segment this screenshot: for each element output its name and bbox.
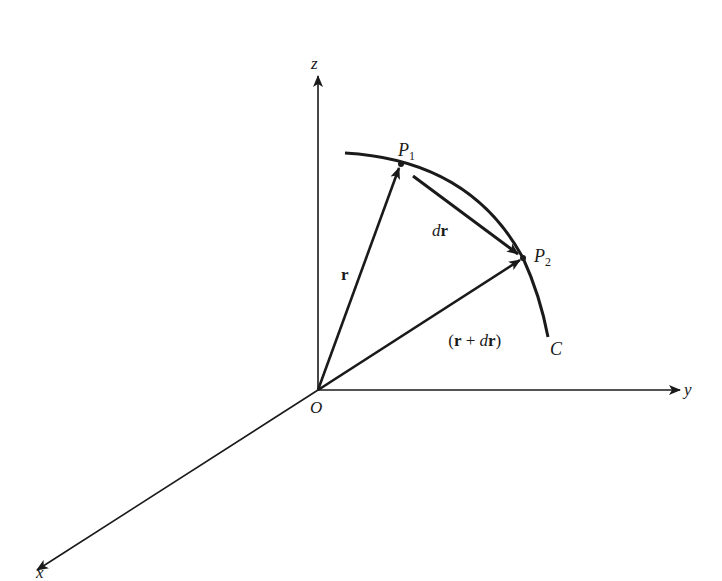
z-axis-label: z: [310, 54, 318, 73]
dr-r: r: [441, 221, 449, 240]
rpdr-plus: +: [461, 331, 479, 350]
x-axis-label: x: [35, 563, 44, 581]
y-axis-label: y: [682, 380, 692, 399]
p2-label: P2: [533, 246, 551, 269]
p1-letter: P: [397, 140, 409, 160]
curve-c-label: C: [550, 339, 563, 359]
p2-subscript: 2: [545, 255, 551, 269]
curve-c: [345, 153, 548, 337]
point-p1: [398, 161, 404, 167]
vector-dr: [413, 176, 518, 254]
p2-letter: P: [533, 246, 545, 266]
paren-close: ): [496, 331, 502, 350]
x-axis: [37, 390, 318, 570]
vector-r-plus-dr-label: (r + dr): [427, 331, 514, 350]
point-p2: [520, 255, 526, 261]
p1-label: P1: [397, 140, 415, 163]
origin-label: O: [310, 398, 322, 417]
vector-r-label: r: [341, 265, 349, 284]
vector-r: [318, 168, 399, 390]
vector-diagram: z y x O P1 P2 C r dr (r + dr): [0, 0, 722, 581]
vector-dr-label: dr: [432, 221, 449, 240]
p1-subscript: 1: [409, 149, 415, 163]
